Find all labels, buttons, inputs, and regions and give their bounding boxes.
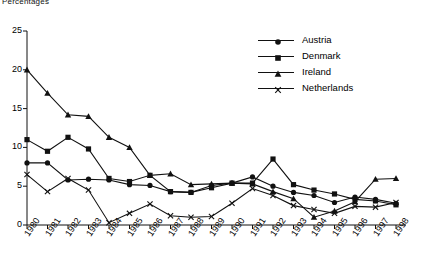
y-axis-label: 0	[0, 220, 22, 229]
legend-marker-square-icon	[272, 52, 284, 64]
y-axis-label: 5	[0, 181, 22, 190]
legend-label: Denmark	[302, 50, 341, 61]
y-axis-label: 25	[0, 26, 22, 35]
legend-label: Austria	[302, 34, 332, 45]
chart-container: Percentages 0510152025 19801981198219831…	[0, 0, 429, 266]
legend-marker-cross-icon	[272, 84, 284, 96]
y-axis-label: 20	[0, 65, 22, 74]
y-axis-label: 15	[0, 104, 22, 113]
legend-label: Ireland	[302, 66, 331, 77]
legend-marker-circle-icon	[272, 36, 284, 48]
legend-marker-triangle-icon	[272, 68, 284, 80]
y-axis-label: 10	[0, 142, 22, 151]
legend-label: Netherlands	[302, 82, 353, 93]
